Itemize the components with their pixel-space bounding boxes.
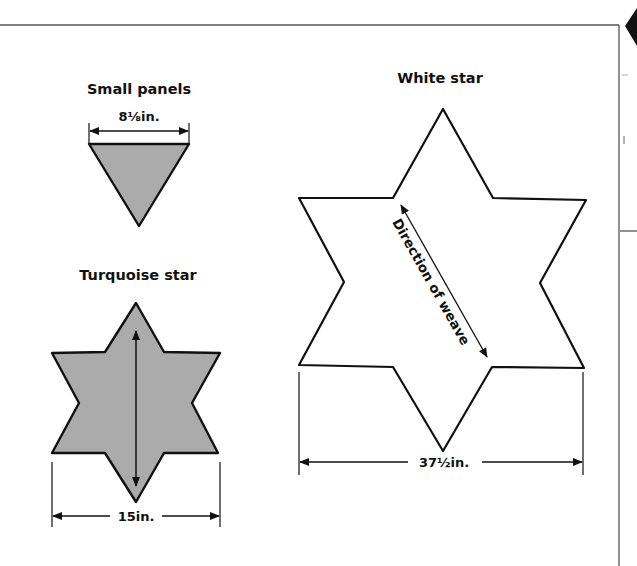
white-star-title: White star [397,70,483,86]
white-star-figure: White star Direction of weave 37½in. [299,70,586,475]
turquoise-star-figure: Turquoise star 15in. [52,267,220,527]
small-panels-dimension: 8⅛in. [118,109,159,124]
small-panels-figure: Small panels 8⅛in. [87,81,191,226]
triangle-panel-shape [89,144,189,226]
white-star-dimension: 37½in. [419,455,469,470]
pattern-diagram: Small panels 8⅛in. Turquoise star 15in. … [0,0,637,566]
small-panels-title: Small panels [87,81,191,97]
corner-diamond-icon [625,8,637,46]
white-star-shape [299,109,586,451]
turquoise-star-title: Turquoise star [79,267,197,283]
turquoise-star-dimension: 15in. [118,509,155,524]
